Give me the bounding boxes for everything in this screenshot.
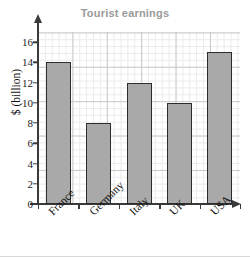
bars-layer: [38, 32, 240, 204]
x-tick-mark: [159, 204, 160, 209]
bar-chart: Tourist earnings 0246810121416 $ (billio…: [0, 0, 250, 257]
y-tick-label: 2: [0, 178, 33, 190]
x-tick-mark: [200, 204, 201, 209]
y-axis-arrow-icon: [34, 14, 42, 23]
bar-italy: [127, 83, 152, 204]
x-tick-mark: [240, 204, 241, 209]
y-axis-title: $ (billion): [10, 32, 22, 152]
y-tick-label: 4: [0, 158, 33, 170]
x-tick-mark: [119, 204, 120, 209]
x-tick-mark: [38, 204, 39, 209]
bar-france: [46, 62, 71, 204]
x-tick-mark: [78, 204, 79, 209]
y-tick-label: 0: [0, 198, 33, 210]
bar-usa: [207, 52, 232, 204]
bar-uk: [167, 103, 192, 204]
